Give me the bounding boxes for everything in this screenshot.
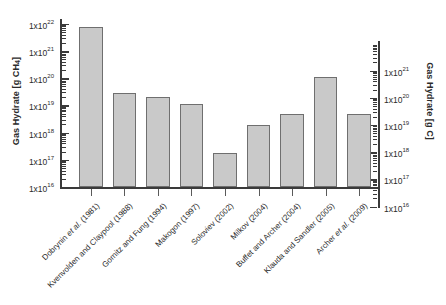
y-axis-right-tick-label: 1x1020 [384,93,432,105]
y-axis-left-tick-label: 1x1017 [8,155,54,167]
gas-hydrate-bar-chart: Gas Hydrate [g CH4] Gas Hydrate [g C] 1x… [0,0,446,305]
y-axis-minor-tick [62,171,66,172]
y-axis-minor-tick [373,100,377,101]
y-axis-minor-tick [373,184,377,185]
y-axis-minor-tick [373,198,377,199]
x-axis-tick [191,189,192,196]
y-axis-minor-tick [373,156,377,157]
y-axis-minor-tick [62,135,66,136]
y-axis-minor-tick [62,152,66,153]
x-axis-spine [60,187,379,189]
bar-1[interactable] [113,93,136,187]
y-axis-minor-tick [62,174,66,175]
y-axis-minor-tick [373,49,377,50]
y-axis-minor-tick [62,55,66,56]
y-axis-minor-tick [373,133,377,134]
y-axis-left-major-tick [62,133,69,135]
y-axis-minor-tick [62,179,66,180]
y-axis-minor-tick [373,190,377,191]
y-axis-minor-tick [373,129,377,130]
y-axis-minor-tick [62,57,66,58]
bar-5[interactable] [247,125,270,187]
y-axis-minor-tick [373,187,377,188]
bar-7[interactable] [314,77,337,187]
y-axis-minor-tick [62,110,66,111]
y-axis-right-tick-label: 1x1018 [384,147,432,159]
bar-3[interactable] [180,104,203,187]
y-axis-left-tick-label: 1x1018 [8,128,54,140]
y-axis-minor-tick [373,144,377,145]
x-axis-tick [225,189,226,196]
y-axis-minor-tick [62,81,66,82]
bar-0[interactable] [79,27,102,187]
bar-4[interactable] [213,153,236,187]
y-axis-minor-tick [373,58,377,59]
y-axis-minor-tick [62,137,66,138]
x-axis-tick [91,189,92,196]
y-axis-minor-tick [62,28,66,29]
y-axis-minor-tick [62,166,66,167]
y-axis-right-major-tick [370,125,377,127]
y-axis-left-major-tick [62,78,69,80]
y-axis-minor-tick [62,43,66,44]
y-axis-right-tick-label: 1x1021 [384,66,432,78]
x-axis-tick [158,189,159,196]
y-axis-right-major-tick [370,179,377,181]
y-axis-left-major-tick [62,51,69,53]
bar-2[interactable] [146,97,169,187]
y-axis-minor-tick [62,30,66,31]
x-axis-tick [292,189,293,196]
y-axis-minor-tick [373,85,377,86]
y-axis-left-tick-label: 1x1022 [8,19,54,31]
y-axis-minor-tick [373,128,377,129]
y-axis-minor-tick [62,70,66,71]
y-axis-minor-tick [373,73,377,74]
y-axis-minor-tick [62,82,66,83]
y-axis-minor-tick [373,139,377,140]
bar-8[interactable] [347,114,370,187]
y-axis-minor-tick [373,45,377,46]
y-axis-minor-tick [373,79,377,80]
y-axis-left-tick-label: 1x1020 [8,73,54,85]
y-axis-right-major-tick [370,207,377,209]
y-axis-minor-tick [373,62,377,63]
y-axis-minor-tick [62,26,66,27]
y-axis-minor-tick [373,155,377,156]
y-axis-left-major-tick [62,187,69,189]
x-axis-tick [259,189,260,196]
y-axis-minor-tick [373,54,377,55]
y-axis-minor-tick [373,131,377,132]
y-axis-minor-tick [62,32,66,33]
y-axis-minor-tick [373,136,377,137]
y-axis-minor-tick [373,171,377,172]
y-axis-minor-tick [373,48,377,49]
y-axis-minor-tick [373,106,377,107]
y-axis-minor-tick [373,166,377,167]
y-axis-minor-tick [62,164,66,165]
y-axis-right-major-tick [370,98,377,100]
y-axis-minor-tick [373,160,377,161]
y-axis-left-tick-label: 1x1021 [8,46,54,58]
y-axis-left-major-tick [62,105,69,107]
y-axis-minor-tick [373,194,377,195]
y-axis-right-spine [378,41,380,208]
y-axis-minor-tick [62,141,66,142]
y-axis-right-tick-label: 1x1017 [384,174,432,186]
bar-6[interactable] [280,114,303,187]
y-axis-minor-tick [373,75,377,76]
y-axis-minor-tick [373,163,377,164]
y-axis-minor-tick [62,54,66,55]
y-axis-minor-tick [62,108,66,109]
y-axis-minor-tick [373,117,377,118]
y-axis-minor-tick [62,35,66,36]
y-axis-minor-tick [373,51,377,52]
y-axis-minor-tick [62,89,66,90]
y-axis-minor-tick [373,46,377,47]
y-axis-minor-tick [62,139,66,140]
y-axis-left-tick-label: 1x1016 [8,182,54,194]
y-axis-left-major-tick [62,24,69,26]
y-axis-minor-tick [373,109,377,110]
x-axis-tick [326,189,327,196]
y-axis-right-major-tick [370,152,377,154]
y-axis-minor-tick [62,147,66,148]
